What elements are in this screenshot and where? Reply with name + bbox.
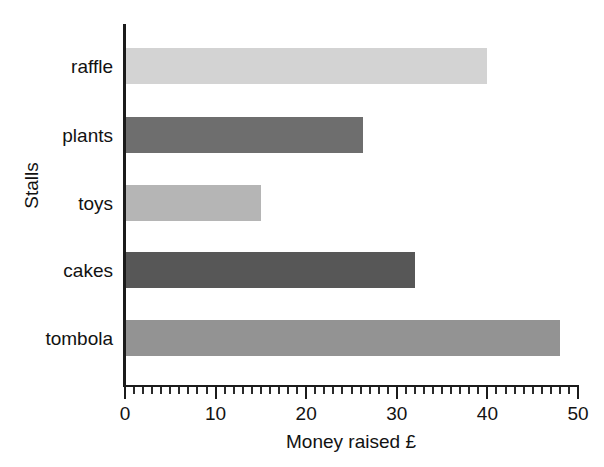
x-tick-minor-27 xyxy=(369,387,371,394)
x-tick-major-40 xyxy=(486,387,488,399)
x-tick-minor-45 xyxy=(532,387,534,394)
y-axis-line xyxy=(123,24,126,386)
x-tick-minor-7 xyxy=(187,387,189,394)
x-tick-minor-33 xyxy=(423,387,425,394)
x-tick-minor-19 xyxy=(296,387,298,394)
x-tick-label-30: 30 xyxy=(386,404,407,423)
x-tick-major-0 xyxy=(124,387,126,399)
x-tick-minor-26 xyxy=(360,387,362,394)
x-tick-minor-47 xyxy=(550,387,552,394)
x-tick-major-30 xyxy=(396,387,398,399)
x-tick-minor-9 xyxy=(206,387,208,394)
x-tick-label-0: 0 xyxy=(120,404,131,423)
x-tick-minor-46 xyxy=(541,387,543,394)
x-tick-minor-28 xyxy=(378,387,380,394)
x-tick-minor-14 xyxy=(251,387,253,394)
x-tick-minor-15 xyxy=(260,387,262,394)
x-tick-minor-29 xyxy=(387,387,389,394)
x-tick-minor-44 xyxy=(523,387,525,394)
x-tick-minor-4 xyxy=(160,387,162,394)
bar-chart: raffleplantstoyscakestombola 01020304050… xyxy=(0,0,604,467)
x-tick-major-50 xyxy=(577,387,579,399)
bar-plants xyxy=(125,117,363,153)
x-tick-minor-34 xyxy=(432,387,434,394)
x-tick-minor-24 xyxy=(341,387,343,394)
bar-tombola xyxy=(125,320,560,356)
x-tick-minor-31 xyxy=(405,387,407,394)
x-tick-major-20 xyxy=(305,387,307,399)
x-axis-title: Money raised £ xyxy=(123,432,579,451)
y-axis-label-cakes: cakes xyxy=(0,261,113,280)
x-tick-major-10 xyxy=(215,387,217,399)
x-tick-minor-32 xyxy=(414,387,416,394)
x-tick-label-10: 10 xyxy=(205,404,226,423)
x-tick-minor-3 xyxy=(151,387,153,394)
x-tick-minor-6 xyxy=(178,387,180,394)
x-tick-minor-41 xyxy=(495,387,497,394)
x-tick-minor-8 xyxy=(196,387,198,394)
x-tick-minor-5 xyxy=(169,387,171,394)
x-tick-label-20: 20 xyxy=(296,404,317,423)
x-tick-minor-1 xyxy=(133,387,135,394)
plot-area: raffleplantstoyscakestombola xyxy=(0,0,604,467)
y-axis-label-tombola: tombola xyxy=(0,329,113,348)
x-tick-minor-11 xyxy=(224,387,226,394)
x-tick-minor-48 xyxy=(559,387,561,394)
x-tick-minor-39 xyxy=(477,387,479,394)
bar-raffle xyxy=(125,48,487,84)
x-tick-minor-17 xyxy=(278,387,280,394)
x-tick-label-50: 50 xyxy=(567,404,588,423)
x-tick-minor-37 xyxy=(459,387,461,394)
x-tick-minor-38 xyxy=(468,387,470,394)
y-axis-label-plants: plants xyxy=(0,126,113,145)
x-tick-minor-12 xyxy=(233,387,235,394)
bar-cakes xyxy=(125,252,415,288)
y-axis-title: Stalls xyxy=(22,131,41,241)
x-tick-minor-18 xyxy=(287,387,289,394)
x-tick-minor-13 xyxy=(242,387,244,394)
x-tick-minor-43 xyxy=(514,387,516,394)
y-axis-label-raffle: raffle xyxy=(0,57,113,76)
x-tick-minor-2 xyxy=(142,387,144,394)
x-tick-minor-35 xyxy=(441,387,443,394)
y-axis-label-toys: toys xyxy=(0,194,113,213)
x-tick-minor-23 xyxy=(332,387,334,394)
x-tick-minor-22 xyxy=(323,387,325,394)
x-tick-minor-25 xyxy=(351,387,353,394)
x-tick-minor-49 xyxy=(568,387,570,394)
x-tick-minor-42 xyxy=(505,387,507,394)
x-tick-label-40: 40 xyxy=(477,404,498,423)
bar-toys xyxy=(125,185,261,221)
x-tick-minor-16 xyxy=(269,387,271,394)
x-tick-minor-36 xyxy=(450,387,452,394)
x-tick-minor-21 xyxy=(314,387,316,394)
